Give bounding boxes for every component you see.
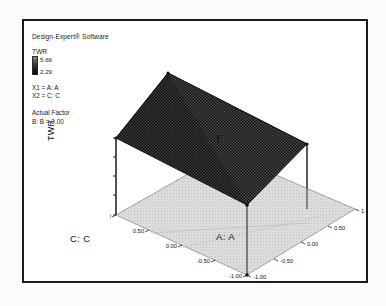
- surface-vertex-high: [166, 71, 169, 74]
- surface-plot: 5.6 4.775 3.95 3.125 2.3 1.00 0.50 0.00: [110, 43, 366, 281]
- scanned-page: · Design-Expert® Software TWR 5.66 2.29 …: [0, 0, 386, 306]
- y-tick-label-1: 0.50: [133, 228, 144, 234]
- colorbar-low-value: 2.29: [40, 68, 52, 75]
- page-speck: ·: [104, 6, 107, 14]
- y-axis-title: C: C: [70, 233, 91, 244]
- x-tick-label-4: 1.00: [361, 208, 366, 214]
- x-tick-label-0: -1.00: [253, 274, 266, 280]
- x-tick-label-3: 0.50: [334, 225, 345, 231]
- z-axis-ticks: 5.6 4.775 3.95 3.125 2.3: [110, 135, 116, 218]
- y-tick-label-0: 1.00: [110, 213, 111, 219]
- colorbar-gradient: [32, 56, 38, 75]
- surface-vertex-right: [305, 142, 308, 145]
- surface-plot-svg: 5.6 4.775 3.95 3.125 2.3 1.00 0.50 0.00: [110, 43, 366, 281]
- y-tick-label-4: -1.00: [229, 273, 242, 279]
- colorbar-high-value: 5.66: [40, 56, 52, 63]
- surface-vertex-low: [245, 203, 249, 207]
- x-tick-label-1: -0.50: [280, 258, 293, 264]
- y-tick-label-3: -0.50: [197, 258, 210, 264]
- plot-frame: Design-Expert® Software TWR 5.66 2.29 X1…: [22, 19, 368, 283]
- x-tick-label-2: 0.00: [307, 241, 318, 247]
- y-tick-label-2: 0.00: [166, 243, 177, 249]
- z-axis-title: TWR: [46, 120, 56, 141]
- software-title: Design-Expert® Software: [32, 33, 152, 40]
- x-axis-title: A: A: [216, 231, 235, 242]
